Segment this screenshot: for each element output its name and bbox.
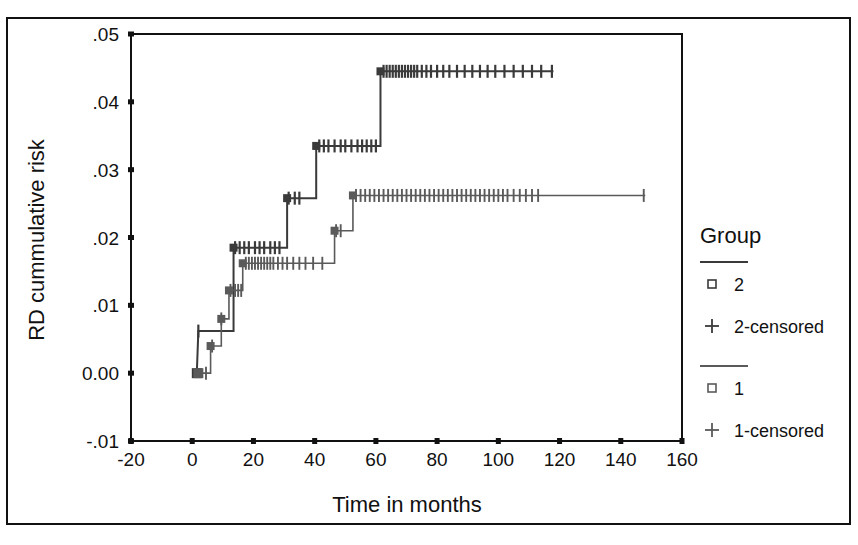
legend-item-label: 1-censored [734,421,824,441]
y-tick-label: .04 [93,92,120,113]
x-tick-label: 20 [243,449,264,470]
series-1 [193,189,645,380]
y-tick-mark [128,99,134,104]
x-tick-mark [496,438,501,444]
legend-item-label: 2-censored [734,317,824,337]
y-tick-label: 0.00 [82,363,119,384]
y-tick-mark [128,371,134,376]
x-tick-label: 60 [365,449,386,470]
event-marker [349,191,357,199]
x-tick-label: -20 [117,449,144,470]
legend-square-marker [708,280,716,288]
x-tick-mark [435,438,440,444]
legend: Group 22-censored11-censored [700,223,824,441]
y-tick-mark [128,235,134,240]
event-marker [376,67,384,75]
event-marker [207,342,215,350]
event-marker [283,194,291,202]
event-marker [225,286,233,294]
x-tick-label: 120 [544,449,576,470]
x-tick-mark [312,438,317,444]
x-tick-label: 80 [427,449,448,470]
event-marker [239,259,247,267]
event-marker [230,244,238,252]
y-tick-label: .01 [93,295,119,316]
legend-square-marker [708,384,716,392]
y-tick-label: -.01 [86,431,119,452]
series-layer [192,65,645,380]
legend-title: Group [700,223,761,248]
x-tick-label: 160 [666,449,698,470]
x-tick-mark [373,438,378,444]
series-2 [192,65,554,378]
event-marker [312,142,320,150]
y-axis-title: RD cummulative risk [24,138,49,341]
x-tick-label: 100 [482,449,514,470]
x-tick-mark [618,438,623,444]
plot-frame [131,34,682,441]
step-line-2 [197,71,554,373]
y-tick-label: .05 [93,24,119,45]
legend-items: 22-censored11-censored [700,262,824,441]
event-marker [331,227,339,235]
y-tick-mark [128,167,134,172]
x-tick-mark [680,438,685,444]
x-tick-mark [251,438,256,444]
x-tick-label: 40 [304,449,325,470]
y-tick-mark [128,32,134,37]
x-tick-label: 0 [187,449,198,470]
kaplan-meier-chart: -20020406080100120140160 .05.04.03.02.01… [0,0,858,545]
figure-container: -20020406080100120140160 .05.04.03.02.01… [0,0,858,545]
x-axis-ticks: -20020406080100120140160 [117,438,698,470]
legend-item-label: 2 [734,275,744,295]
x-tick-mark [557,438,562,444]
x-axis-title: Time in months [332,492,482,517]
y-tick-mark [128,439,134,444]
y-tick-mark [128,303,134,308]
event-marker [217,315,225,323]
x-tick-mark [190,438,195,444]
y-tick-label: .02 [93,228,119,249]
y-axis-ticks: .05.04.03.02.010.00-.01 [82,24,134,452]
origin-marker [193,368,203,378]
x-tick-label: 140 [605,449,637,470]
y-tick-label: .03 [93,160,119,181]
legend-item-label: 1 [734,379,744,399]
step-line-1 [198,195,645,373]
